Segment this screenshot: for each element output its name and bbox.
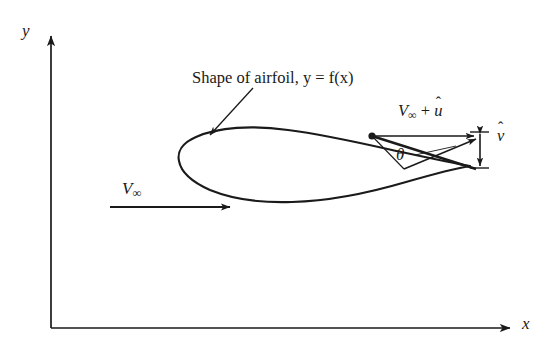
u-hat-symbol: ˆu: [434, 103, 442, 120]
u-hat-mark: ˆ: [436, 95, 441, 111]
u-label-subscript: ∞: [408, 108, 416, 122]
freestream-subscript: ∞: [132, 186, 141, 200]
axis-y-label: y: [22, 22, 30, 39]
u-label-plus: +: [417, 101, 435, 120]
u-component-label: V∞ + ˆu: [398, 103, 442, 121]
diagram-vector-layer: [0, 0, 545, 353]
freestream-symbol: V: [122, 179, 132, 198]
airfoil-outline: [179, 127, 470, 202]
surface-point-dot: [368, 132, 375, 139]
figure-canvas: y x Shape of airfoil, y = f(x) V∞ V∞ + ˆ…: [0, 0, 545, 353]
theta-angle-label: θ: [396, 146, 404, 163]
v-hat-symbol: ˆv: [497, 128, 504, 145]
v-hat-mark: ˆ: [498, 120, 503, 136]
v-component-label: ˆv: [497, 128, 504, 145]
u-label-v-symbol: V: [398, 101, 408, 120]
freestream-velocity-label: V∞: [122, 180, 141, 199]
axis-x-label: x: [522, 315, 530, 332]
airfoil-caption: Shape of airfoil, y = f(x): [192, 70, 353, 87]
